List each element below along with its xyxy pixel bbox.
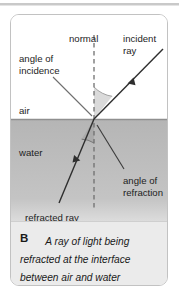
refraction-diagram: normal incident ray angle of incidence a… [11,15,167,221]
figure-caption-text: A ray of light being refracted at the in… [20,236,130,283]
label-water: water [19,147,42,159]
page-top-rule-soft [0,5,179,6]
label-normal: normal [69,33,98,45]
figure-card: normal incident ray angle of incidence a… [10,14,168,286]
label-air: air [19,105,30,117]
figure-caption-inner: B A ray of light being refracted at the … [20,231,161,285]
label-angle-of-incidence: angle of incidence [19,53,60,76]
figure-caption-letter: B [20,231,28,245]
figure-caption: B A ray of light being refracted at the … [11,221,167,285]
label-incident-ray: incident ray [123,33,156,56]
label-angle-of-refraction: angle of refraction [123,175,163,198]
figure-page: normal incident ray angle of incidence a… [0,0,179,297]
